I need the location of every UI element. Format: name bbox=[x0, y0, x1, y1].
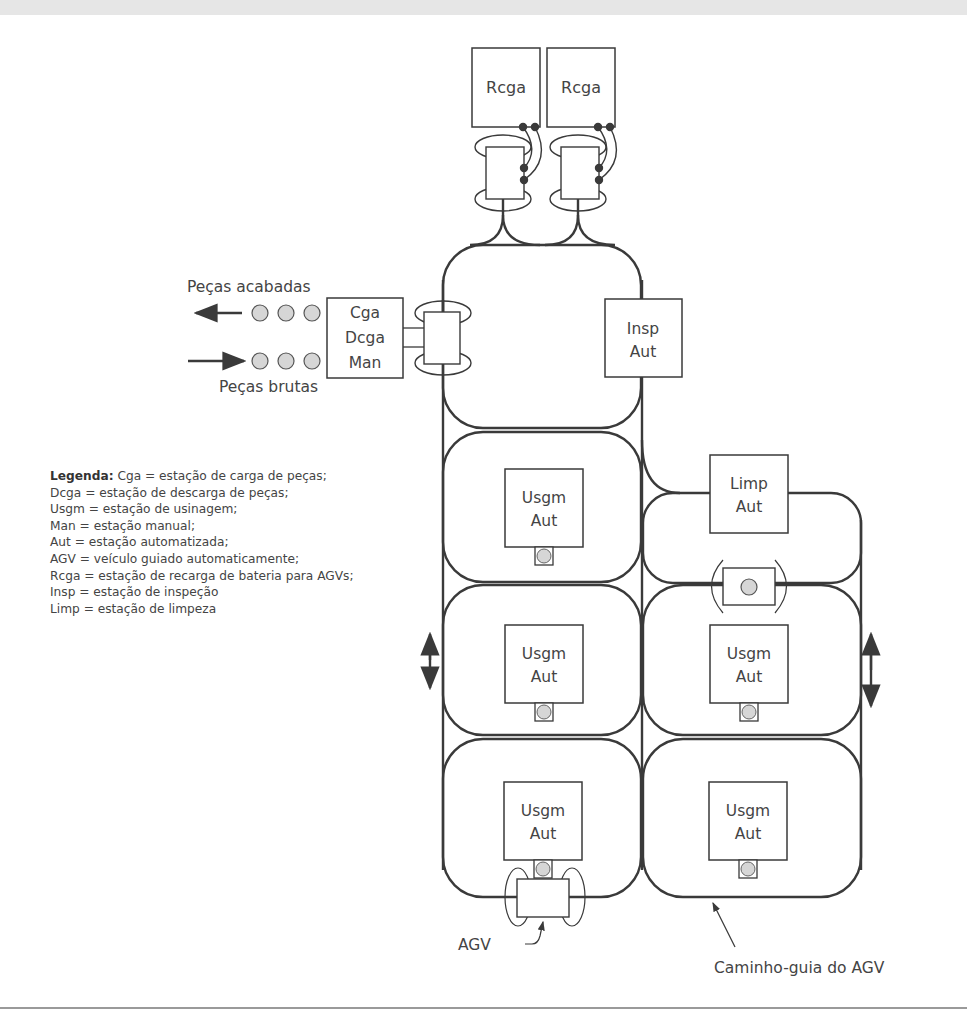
svg-text:Rcga: Rcga bbox=[561, 78, 601, 97]
svg-text:Aut: Aut bbox=[531, 512, 558, 530]
machining-station-5: Usgm Aut bbox=[709, 782, 787, 878]
legend-row-6: AGV = veículo guiado automaticamente; bbox=[50, 551, 354, 568]
legend-row-8: Insp = estação de inspeção bbox=[50, 584, 354, 601]
guide-path-callout-line bbox=[713, 903, 735, 947]
agv-at-load-station bbox=[415, 300, 471, 375]
svg-text:Aut: Aut bbox=[531, 668, 558, 686]
agv-charging-1 bbox=[475, 124, 541, 212]
svg-text:Rcga: Rcga bbox=[486, 78, 526, 97]
legend-title: Legenda: bbox=[50, 469, 114, 483]
finished-parts-label: Peças acabadas bbox=[187, 278, 311, 296]
cleaning-station: Limp Aut bbox=[710, 455, 788, 533]
bottom-rule bbox=[0, 1007, 967, 1009]
recharge-station-1: Rcga bbox=[472, 48, 540, 127]
machining-station-1: Usgm Aut bbox=[505, 469, 583, 565]
machining-station-4: Usgm Aut bbox=[504, 782, 582, 878]
svg-text:Man: Man bbox=[349, 354, 382, 372]
recharge-station-2: Rcga bbox=[547, 48, 615, 127]
legend: Legenda: Cga = estação de carga de peças… bbox=[50, 468, 354, 617]
svg-text:Aut: Aut bbox=[736, 498, 763, 516]
svg-text:Limp: Limp bbox=[730, 475, 768, 493]
svg-text:Usgm: Usgm bbox=[522, 645, 566, 663]
svg-text:Cga: Cga bbox=[350, 304, 380, 322]
svg-text:Usgm: Usgm bbox=[522, 489, 566, 507]
svg-text:Usgm: Usgm bbox=[521, 802, 565, 820]
finished-parts-queue bbox=[252, 305, 320, 321]
raw-parts-label: Peças brutas bbox=[219, 378, 318, 396]
legend-row-4: Man = estação manual; bbox=[50, 518, 354, 535]
svg-text:Aut: Aut bbox=[735, 825, 762, 843]
agv-label: AGV bbox=[458, 936, 491, 954]
svg-text:Aut: Aut bbox=[630, 343, 657, 361]
legend-row-9: Limp = estação de limpeza bbox=[50, 601, 354, 618]
svg-text:Usgm: Usgm bbox=[726, 802, 770, 820]
svg-text:Aut: Aut bbox=[530, 825, 557, 843]
legend-row-3: Usgm = estação de usinagem; bbox=[50, 501, 354, 518]
legend-row-7: Rcga = estação de recarga de bateria par… bbox=[50, 568, 354, 585]
svg-text:Usgm: Usgm bbox=[727, 645, 771, 663]
load-unload-station: Cga Dcga Man bbox=[327, 298, 425, 378]
svg-text:Dcga: Dcga bbox=[345, 329, 385, 347]
guide-path-label: Caminho-guia do AGV bbox=[714, 959, 885, 977]
raw-parts-queue bbox=[252, 353, 320, 369]
inspection-station: Insp Aut bbox=[605, 299, 682, 377]
agv-charging-2 bbox=[550, 124, 616, 212]
agv-callout-line bbox=[525, 922, 543, 944]
legend-row-5: Aut = estação automatizada; bbox=[50, 534, 354, 551]
legend-row-1: Legenda: Cga = estação de carga de peças… bbox=[50, 468, 354, 485]
legend-row-2: Dcga = estação de descarga de peças; bbox=[50, 485, 354, 502]
svg-text:Aut: Aut bbox=[736, 668, 763, 686]
machining-station-2: Usgm Aut bbox=[505, 625, 583, 721]
agv-carrying-part bbox=[712, 560, 787, 613]
svg-text:Insp: Insp bbox=[627, 320, 659, 338]
machining-station-3: Usgm Aut bbox=[710, 625, 788, 721]
